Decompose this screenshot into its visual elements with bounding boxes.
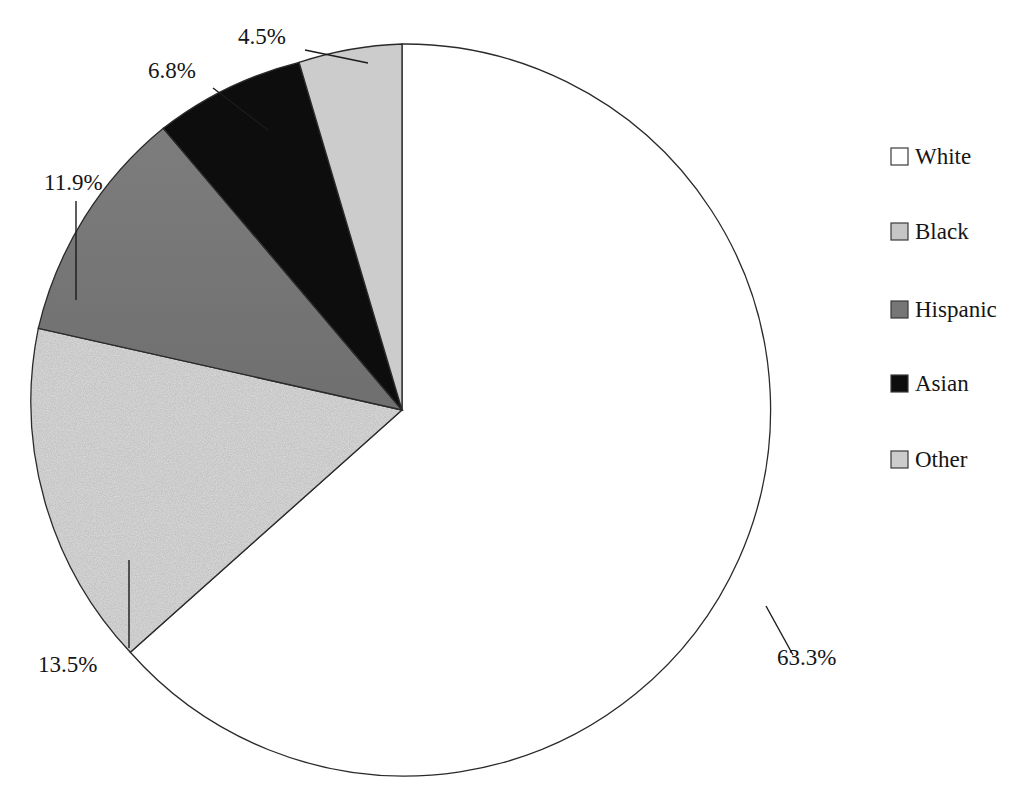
legend-item-black[interactable]: Black — [891, 219, 969, 244]
value-label-hispanic: 11.9% — [44, 170, 103, 195]
legend-label-other: Other — [915, 447, 968, 472]
legend-swatch-asian-icon — [891, 375, 908, 392]
legend-label-asian: Asian — [915, 371, 969, 396]
legend-swatch-black-icon — [891, 223, 908, 240]
legend-label-black: Black — [915, 219, 969, 244]
value-label-asian: 6.8% — [148, 58, 196, 83]
pie-chart-figure: 63.3% 13.5% 11.9% 6.8% 4.5% White Black … — [0, 0, 1028, 793]
value-label-white: 63.3% — [777, 645, 836, 670]
legend-label-white: White — [915, 144, 971, 169]
legend-item-white[interactable]: White — [891, 144, 971, 169]
value-label-black: 13.5% — [38, 652, 97, 677]
legend-item-hispanic[interactable]: Hispanic — [891, 297, 997, 322]
legend-swatch-hispanic-icon — [891, 301, 908, 318]
value-label-other: 4.5% — [238, 24, 286, 49]
legend-item-asian[interactable]: Asian — [891, 371, 969, 396]
legend-label-hispanic: Hispanic — [915, 297, 997, 322]
legend-swatch-white-icon — [891, 148, 908, 165]
legend-item-other[interactable]: Other — [891, 447, 968, 472]
chart-canvas: 63.3% 13.5% 11.9% 6.8% 4.5% White Black … — [0, 0, 1028, 793]
legend-swatch-other-icon — [891, 451, 908, 468]
